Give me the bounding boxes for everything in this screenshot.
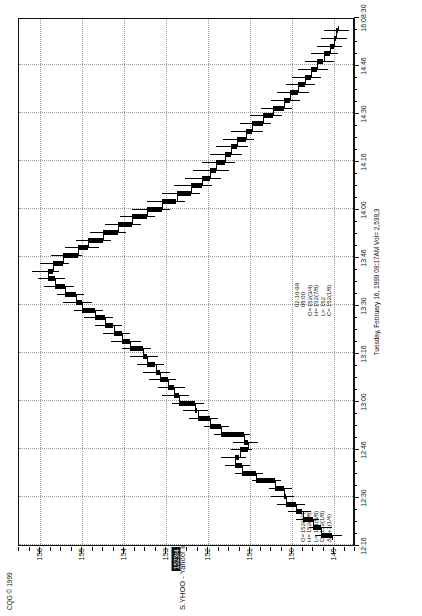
price-minor-tick <box>50 547 51 551</box>
time-minor-tick <box>354 281 357 282</box>
price-tick-mark <box>165 547 166 554</box>
price-tick-mark <box>81 547 82 554</box>
bar-open-tick <box>78 248 79 252</box>
bar-open-tick <box>286 497 287 501</box>
bar-open-close-body <box>256 478 275 483</box>
quote-right-row: C=152(1/8) <box>326 283 332 316</box>
bar-open-close-body <box>118 222 133 227</box>
time-minor-tick <box>354 185 357 186</box>
time-minor-tick <box>354 137 357 138</box>
bar-open-tick <box>284 489 285 493</box>
bar-open-tick <box>334 39 335 43</box>
vertical-gridline <box>19 496 353 497</box>
time-minor-tick <box>354 269 357 270</box>
time-tick-label: 12:30 <box>360 489 367 507</box>
vertical-gridline <box>19 448 353 449</box>
price-minor-tick <box>354 547 355 551</box>
quote-right-value: 152 <box>320 297 326 307</box>
price-minor-tick <box>270 547 271 551</box>
quote-left-row: Δ=+1(1/4) <box>326 511 332 542</box>
quote-right-value: 08:00 <box>300 292 306 307</box>
quote-right-value: 152(3/4) <box>307 285 313 307</box>
bar-open-tick <box>235 458 236 462</box>
bar-open-close-body <box>65 292 76 297</box>
bar-open-tick <box>202 179 203 183</box>
bar-open-tick <box>162 202 163 206</box>
time-tick-label: 13:16 <box>360 345 367 363</box>
bar-open-close-body <box>237 137 245 142</box>
time-minor-tick <box>354 341 357 342</box>
horizontal-gridline <box>208 19 209 545</box>
bar-open-tick <box>324 54 325 58</box>
time-minor-tick <box>354 389 357 390</box>
time-minor-tick <box>354 425 357 426</box>
bar-open-close-body <box>95 315 106 320</box>
bar-open-close-body <box>177 191 192 196</box>
bar-open-tick <box>248 443 249 447</box>
bar-open-tick <box>210 419 211 423</box>
price-minor-tick <box>239 547 240 551</box>
bar-open-close-body <box>221 432 244 437</box>
price-minor-tick <box>60 547 61 551</box>
bar-open-tick <box>284 101 285 105</box>
time-minor-tick <box>354 77 357 78</box>
bar-open-tick <box>114 326 115 330</box>
bar-open-tick <box>210 171 211 175</box>
price-minor-tick <box>312 547 313 551</box>
bar-open-tick <box>225 155 226 159</box>
time-minor-tick <box>354 149 357 150</box>
bar-open-close-body <box>273 106 284 111</box>
bar-open-tick <box>122 334 123 338</box>
bar-open-tick <box>216 163 217 167</box>
bar-open-tick <box>156 365 157 369</box>
bar-open-close-body <box>179 401 196 406</box>
bar-open-tick <box>332 536 333 540</box>
time-minor-tick <box>354 317 357 318</box>
bar-open-tick <box>132 217 133 221</box>
price-minor-tick <box>155 547 156 551</box>
bar-open-tick <box>147 210 148 214</box>
bar-open-tick <box>105 318 106 322</box>
price-minor-tick <box>18 547 19 551</box>
price-tick-mark <box>207 547 208 554</box>
bar-open-tick <box>88 241 89 245</box>
price-tick-mark <box>291 547 292 554</box>
bar-open-tick <box>65 287 66 291</box>
time-tick-label: 14:16 <box>360 153 367 171</box>
bar-open-tick <box>160 373 161 377</box>
time-tick-label: 16:08:30 <box>360 4 367 31</box>
time-minor-tick <box>354 245 357 246</box>
bar-open-close-body <box>275 486 283 491</box>
bar-open-tick <box>221 427 222 431</box>
bar-open-close-body <box>210 424 221 429</box>
bar-open-close-body <box>114 331 122 336</box>
price-minor-tick <box>323 547 324 551</box>
time-minor-tick <box>354 233 357 234</box>
bar-open-close-body <box>130 346 143 351</box>
horizontal-gridline <box>250 19 251 545</box>
bar-open-tick <box>147 357 148 361</box>
time-tick-mark <box>354 449 359 450</box>
bar-open-close-body <box>240 447 248 452</box>
time-tick-mark <box>354 401 359 402</box>
price-minor-tick <box>186 547 187 551</box>
last-price-tag: 1523r4 <box>171 547 180 571</box>
time-tick-label: 14:00 <box>360 201 367 219</box>
time-minor-tick <box>354 29 357 30</box>
bar-open-close-body <box>252 121 263 126</box>
horizontal-gridline <box>334 19 335 545</box>
rotated-chart-canvas: CQG © 1999 S.YHOO - Yahoo! Inc., 2 Min (… <box>0 0 422 616</box>
bar-open-tick <box>177 194 178 198</box>
time-minor-tick <box>354 197 357 198</box>
price-minor-tick <box>281 547 282 551</box>
bar-open-close-body <box>202 176 210 181</box>
quote-left-value: 152(1/8) <box>319 511 325 533</box>
price-tick-mark <box>249 547 250 554</box>
bar-open-tick <box>242 466 243 470</box>
horizontal-gridline <box>40 19 41 545</box>
vertical-gridline <box>19 352 353 353</box>
time-minor-tick <box>354 509 357 510</box>
price-minor-tick <box>197 547 198 551</box>
bar-open-tick <box>298 85 299 89</box>
bar-high-low <box>271 496 294 497</box>
